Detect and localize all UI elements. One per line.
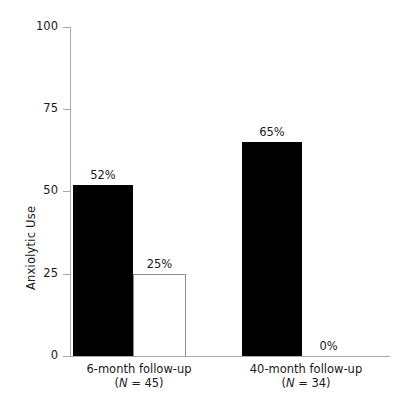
chart-figure: Anxiolytic Use 100 75 50 25 0 52% 25% 6-… bbox=[0, 0, 406, 407]
y-tick-mark-25 bbox=[63, 274, 70, 275]
y-tick-mark-50 bbox=[63, 191, 70, 192]
bar-value-6month-filled: 52% bbox=[73, 169, 133, 181]
bar-value-40month-hollow: 0% bbox=[302, 340, 355, 352]
y-tick-label-50: 50 bbox=[43, 185, 58, 197]
y-tick-label-0: 0 bbox=[51, 350, 58, 362]
y-tick-mark-0 bbox=[63, 356, 70, 357]
bar-value-40month-filled: 65% bbox=[242, 126, 302, 138]
bar-value-6month-hollow: 25% bbox=[133, 258, 186, 270]
y-tick-label-25: 25 bbox=[43, 268, 58, 280]
group-label-text-6month: 6-month follow-up bbox=[86, 362, 191, 376]
group-sample-size-6month: (N = 45) bbox=[49, 376, 229, 391]
x-axis-group-label-6month: 6-month follow-up (N = 45) bbox=[49, 362, 229, 391]
x-axis-group-label-40month: 40-month follow-up (N = 34) bbox=[216, 362, 396, 391]
y-axis-title: Anxiolytic Use bbox=[24, 80, 38, 290]
group-sample-size-40month: (N = 34) bbox=[216, 376, 396, 391]
bar-6month-filled[interactable] bbox=[73, 185, 133, 356]
x-axis-baseline bbox=[70, 356, 390, 357]
y-axis-line bbox=[70, 27, 71, 357]
group-label-text-40month: 40-month follow-up bbox=[250, 362, 362, 376]
y-tick-mark-100 bbox=[63, 27, 70, 28]
y-tick-mark-75 bbox=[63, 109, 70, 110]
bar-40month-filled[interactable] bbox=[242, 142, 302, 356]
bar-6month-hollow[interactable] bbox=[133, 274, 186, 356]
y-tick-label-75: 75 bbox=[43, 103, 58, 115]
y-tick-label-100: 100 bbox=[36, 21, 58, 33]
